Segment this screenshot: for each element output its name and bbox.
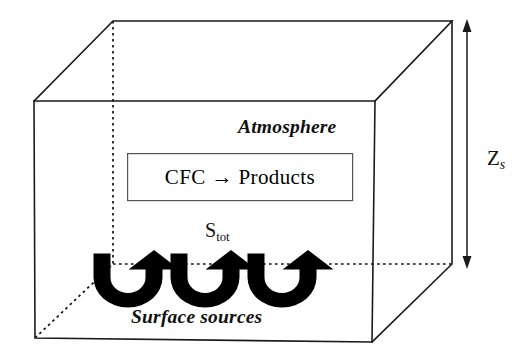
box-model-diagram: Atmosphere CFC → Products Stot Surface s… — [0, 0, 529, 362]
dimension-arrow-head-up — [463, 19, 472, 32]
height-subscript: s — [500, 157, 505, 172]
edge-top-face — [34, 21, 452, 101]
surface-sources-label: Surface sources — [131, 307, 262, 327]
height-symbol: Z — [487, 146, 500, 170]
reaction-label: CFC → Products — [128, 154, 352, 200]
surface-flux-arrows-group — [94, 250, 334, 308]
height-label: Zs — [487, 148, 505, 172]
flux-arrow-1 — [94, 250, 180, 308]
atmosphere-label: Atmosphere — [238, 117, 336, 137]
edge-right-face — [372, 21, 452, 342]
dimension-arrow-head-down — [463, 256, 472, 269]
total-source-symbol: S — [205, 219, 216, 241]
flux-arrow-1-path — [94, 250, 180, 308]
flux-arrow-3 — [248, 250, 334, 308]
flux-arrow-2-path — [171, 250, 257, 308]
total-source-label: Stot — [205, 220, 230, 243]
flux-arrow-2 — [171, 250, 257, 308]
total-source-subscript: tot — [216, 230, 230, 244]
height-dimension-arrow — [463, 19, 472, 269]
flux-arrow-3-path — [248, 250, 334, 308]
